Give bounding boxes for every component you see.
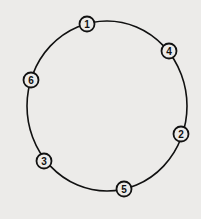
ring-diagram-svg: 142536 (0, 0, 201, 219)
node-1: 1 (80, 17, 95, 32)
node-label: 6 (28, 75, 34, 86)
node-label: 2 (178, 129, 184, 140)
node-label: 1 (84, 19, 90, 30)
node-label: 3 (41, 156, 47, 167)
node-5: 5 (117, 182, 132, 197)
node-6: 6 (24, 73, 39, 88)
node-label: 4 (166, 46, 172, 57)
ring-diagram: 142536 (0, 0, 201, 219)
node-group: 142536 (24, 17, 189, 197)
node-2: 2 (174, 127, 189, 142)
node-label: 5 (121, 184, 127, 195)
node-3: 3 (37, 154, 52, 169)
node-4: 4 (162, 44, 177, 59)
